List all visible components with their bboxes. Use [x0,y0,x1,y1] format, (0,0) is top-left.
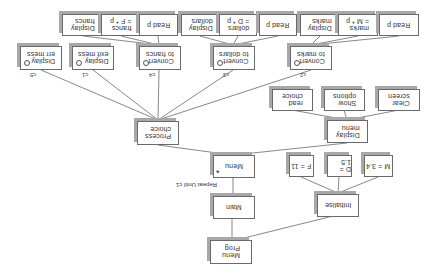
selection-marker-icon [143,60,149,66]
node-menu-prog: Menu Prog [210,240,252,264]
node-label: Display exit mess [78,51,108,65]
node-label: Show options [333,93,356,107]
condition-label-c1: c1 [82,72,88,78]
node-menu: Menu * [213,155,255,178]
node-dollars-calc: dollars = D * p [219,14,257,36]
node-label: M = 3.4 [366,163,390,170]
node-marks-read-p: Read p [379,14,419,36]
node-process-choice: Process choice [137,121,179,145]
node-convert-to-marks: Convert to marks [290,46,332,70]
condition-label-c4: c4 [149,72,155,78]
selection-marker-icon [294,60,300,66]
node-francs-calc: francs = F * p [101,14,140,36]
selection-marker-icon [217,60,223,66]
selection-marker-icon [76,60,82,66]
node-display-err-mess: Display err mess [20,46,62,70]
node-label: Menu Prog [222,245,240,259]
node-init-d: D = 1.5 [327,155,352,177]
node-label: Initialise [325,202,351,209]
repeat-until-note: Repeat Until c1 [176,182,217,188]
node-label: Convert to dollars [219,51,248,65]
node-marks-calc: marks = M * p [338,14,378,36]
node-read-choice: read choice [272,89,313,111]
node-francs-read-p: Read p [139,14,178,36]
node-show-options: Show options [324,89,365,111]
condition-label-c3: c3 [223,72,229,78]
node-display-dollars: Display dollars [181,14,220,36]
node-label: Process choice [145,126,171,140]
node-label: Main [226,204,242,211]
condition-label-c5: c5 [30,72,36,78]
node-label: Display francs [71,18,95,32]
node-convert-to-dollars: Convert to dollars [213,46,255,70]
node-initialise: Initialise [317,194,359,217]
node-label: Menu [225,163,243,170]
iteration-star-icon: * [216,169,220,178]
node-label: Read p [147,22,170,29]
node-display-menu: Display menu [327,120,368,143]
structure-chart: Display francs francs = F * p Read p Dis… [0,0,430,276]
node-label: read choice [282,93,303,107]
node-display-francs: Display francs [62,14,104,36]
node-init-f: F = 11 [289,155,314,177]
node-convert-to-francs: Convert to francs [139,46,181,70]
node-display-exit-mess: Display exit mess [72,46,114,70]
node-label: Convert to marks [297,51,325,65]
node-main: Main [213,196,255,219]
node-label: francs = F * p [110,18,132,32]
node-dollars-read-p: Read p [259,14,297,36]
node-label: Display marks [308,18,332,32]
node-init-m: M = 3.4 [364,155,393,177]
node-label: marks = M * p [346,18,369,32]
selection-marker-icon [24,60,30,66]
condition-label-c2: c2 [300,72,306,78]
node-label: Display menu [336,125,360,139]
node-label: F = 11 [291,163,311,170]
node-label: Convert to francs [146,51,174,65]
node-label: Display err mess [27,51,55,65]
node-label: D = 1.5 [328,159,351,173]
node-label: Display dollars [189,18,213,32]
node-label: dollars = D * p [227,18,249,32]
node-label: Read p [387,22,410,29]
node-clear-screen: Clear screen [378,89,420,111]
node-label: Read p [266,22,289,29]
node-display-marks: Display marks [300,14,340,36]
node-label: Clear screen [388,93,410,107]
